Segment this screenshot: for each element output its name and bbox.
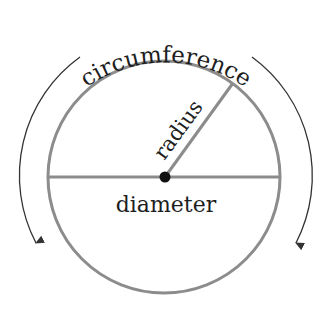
diagram-svg: circumference radius diameter — [0, 0, 329, 310]
right-arrow-arc — [252, 57, 312, 243]
circumference-label: circumference — [75, 41, 256, 91]
circle-diagram: circumference radius diameter — [0, 0, 329, 310]
circumference-text: circumference — [75, 41, 256, 91]
center-point — [160, 172, 171, 183]
diameter-label: diameter — [116, 192, 217, 217]
